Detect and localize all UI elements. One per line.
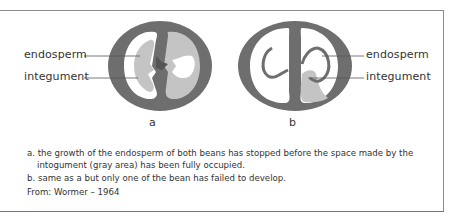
source-citation: From: Wormer – 1964 — [27, 187, 119, 197]
panel-a-label: a — [149, 116, 156, 129]
panel-b-label: b — [289, 116, 296, 129]
callout-integument-a: integument — [24, 70, 89, 83]
caption-b-line: b. same as a but only one of the bean ha… — [27, 172, 437, 184]
callout-endosperm-a: endosperm — [24, 48, 87, 61]
callout-endosperm-b: endosperm — [366, 48, 429, 61]
panel-a-seed — [84, 21, 212, 111]
callout-integument-b: integument — [366, 70, 431, 83]
caption-a-line-1: a. the growth of the endosperm of both b… — [27, 147, 437, 159]
figure-caption: a. the growth of the endosperm of both b… — [27, 147, 437, 184]
caption-a-line-2: intogument (gray area) has been fully oc… — [27, 159, 437, 171]
panel-b-seed — [238, 21, 364, 111]
